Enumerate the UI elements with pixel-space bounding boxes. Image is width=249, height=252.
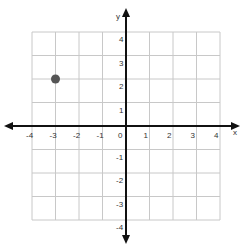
- x-tick-label: 2: [167, 131, 172, 140]
- x-axis-label: x: [233, 128, 237, 137]
- y-tick-label: -2: [116, 176, 124, 185]
- x-tick-labels: -4-3-2-101234: [26, 131, 219, 140]
- x-tick-label: 4: [214, 131, 219, 140]
- y-axis-label: y: [116, 12, 120, 21]
- y-tick-label: 4: [119, 35, 124, 44]
- data-points: [51, 75, 60, 84]
- x-tick-label: -4: [26, 131, 34, 140]
- y-axis-down-arrow-icon: [122, 235, 130, 244]
- y-tick-label: -3: [116, 200, 124, 209]
- y-tick-label: 2: [119, 82, 124, 91]
- x-axis-left-arrow-icon: [4, 122, 13, 130]
- x-tick-label: -3: [50, 131, 58, 140]
- y-tick-label: 3: [119, 59, 124, 68]
- coordinate-plane: x y -4-3-2-101234 4321-1-2-3-4: [0, 0, 249, 252]
- x-tick-label: 0: [118, 131, 123, 140]
- x-tick-label: 3: [191, 131, 196, 140]
- y-tick-label: -1: [116, 153, 124, 162]
- x-tick-label: -1: [97, 131, 105, 140]
- y-tick-label: -4: [116, 223, 124, 232]
- x-tick-label: 1: [144, 131, 149, 140]
- y-tick-label: 1: [119, 106, 124, 115]
- y-axis-up-arrow-icon: [122, 8, 130, 17]
- x-tick-label: -2: [73, 131, 81, 140]
- data-point: [51, 75, 60, 84]
